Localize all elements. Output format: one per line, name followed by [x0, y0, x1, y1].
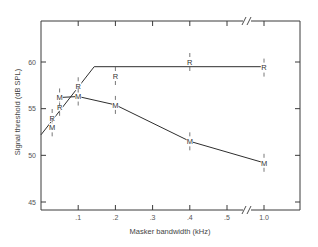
x-axis-label: Masker bandwidth (kHz): [130, 227, 211, 236]
y-tick-label: 45: [28, 199, 36, 206]
point-marker: M: [112, 101, 118, 110]
fit-lines: [41, 67, 264, 163]
y-tick-label: 60: [28, 59, 36, 66]
data-point-r: R: [112, 67, 118, 85]
point-marker: M: [261, 159, 267, 168]
axis-break-icon: [247, 17, 251, 25]
x-tick-label: .1: [75, 214, 81, 221]
y-tick-label: 55: [28, 105, 36, 112]
plot-frame: [41, 17, 300, 214]
point-marker: M: [49, 123, 55, 132]
point-marker: R: [261, 63, 267, 72]
data-point-r: R: [187, 53, 193, 71]
axis-break-icon: [247, 206, 251, 214]
x-tick-label: .5: [224, 214, 230, 221]
x-tick-label: .2: [112, 214, 118, 221]
x-tick-label: .4: [187, 214, 193, 221]
threshold-chart: 45505560 .1.2.3.4.51.0 RRRRRRMMMMMM Mask…: [0, 0, 318, 247]
point-marker: M: [56, 93, 62, 102]
x-axis: .1.2.3.4.51.0: [75, 21, 269, 221]
y-axis-label: Signal threshold (dB SPL): [13, 68, 22, 155]
data-point-m: M: [187, 132, 193, 150]
data-point-m: M: [112, 96, 118, 114]
data-point-r: R: [261, 59, 267, 77]
fit-line-m: [60, 97, 264, 163]
y-axis: 45505560: [28, 59, 300, 206]
point-marker: R: [187, 58, 193, 67]
y-tick-label: 50: [28, 152, 36, 159]
x-tick-label: 1.0: [259, 214, 269, 221]
point-marker: M: [75, 92, 81, 101]
x-tick-label: .3: [150, 214, 156, 221]
point-marker: M: [187, 137, 193, 146]
point-marker: R: [113, 72, 119, 81]
data-point-m: M: [261, 154, 267, 172]
